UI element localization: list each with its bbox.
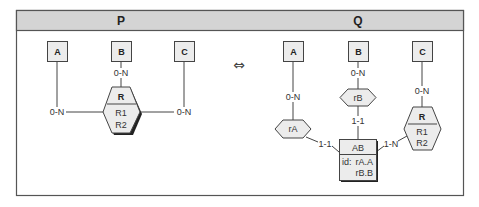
panel-q-title: Q xyxy=(353,14,362,28)
relationship-rb[interactable]: rB xyxy=(340,89,376,106)
cardinality-ab-r: 1-N xyxy=(384,139,399,149)
cardinality-a-ra: 0-N xyxy=(286,92,301,102)
diagram-canvas: P Q ⇔ 0-N 0-N 0-N A B C xyxy=(0,0,479,207)
relationship-ra-name: rA xyxy=(289,124,298,134)
entity-a[interactable]: A xyxy=(284,42,304,62)
cardinality-a-r: 0-N xyxy=(50,107,65,117)
entity-a-label: A xyxy=(54,47,61,57)
entity-c-label: C xyxy=(181,47,188,57)
entity-b-label: B xyxy=(355,47,362,57)
cardinality-b-r: 0-N xyxy=(114,68,129,78)
entity-c[interactable]: C xyxy=(413,42,433,62)
relationship-r-name: R xyxy=(419,112,426,122)
relationship-ra[interactable]: rA xyxy=(275,120,311,138)
relationship-r-attr-2: R2 xyxy=(416,138,428,148)
relationship-r-attr-1: R1 xyxy=(416,127,428,137)
entity-ab-id-2: rB.B xyxy=(355,168,373,178)
equivalence-icon: ⇔ xyxy=(233,57,245,73)
entity-ab-id-prefix: id: xyxy=(342,157,352,167)
cardinality-b-rb: 0-N xyxy=(351,68,366,78)
entity-ab[interactable]: AB id: rA.A rB.B xyxy=(340,140,379,183)
relationship-rb-name: rB xyxy=(354,93,363,103)
entity-b[interactable]: B xyxy=(349,42,369,62)
cardinality-c-r: 0-N xyxy=(177,107,192,117)
entity-ab-id-1: rA.A xyxy=(355,157,373,167)
entity-b-label: B xyxy=(118,47,125,57)
panel-p-title: P xyxy=(117,14,125,28)
diagram-frame xyxy=(17,11,464,196)
entity-a-label: A xyxy=(290,47,297,57)
entity-b[interactable]: B xyxy=(112,42,132,62)
entity-c-label: C xyxy=(419,47,426,57)
header-band xyxy=(17,11,464,31)
entity-a[interactable]: A xyxy=(48,42,68,62)
cardinality-ab-ra: 1-1 xyxy=(318,139,331,149)
entity-ab-label: AB xyxy=(352,143,364,153)
cardinality-ab-rb: 1-1 xyxy=(351,116,364,126)
relationship-r-attr-1: R1 xyxy=(115,108,127,118)
cardinality-c-r: 0-N xyxy=(415,86,430,96)
relationship-r-name: R xyxy=(118,92,125,102)
relationship-r-attr-2: R2 xyxy=(115,120,127,130)
entity-c[interactable]: C xyxy=(175,42,195,62)
